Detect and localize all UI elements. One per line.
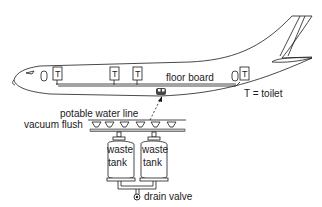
toilet-label: T — [112, 69, 118, 79]
toilet-legend: T = toilet — [244, 88, 283, 99]
toilet-label: T — [242, 69, 248, 79]
toilet-mid-2: T — [133, 67, 142, 85]
waste-tank-label-line1: waste — [106, 144, 134, 155]
floor-board-label: floor board — [166, 72, 214, 83]
vertical-stabilizer — [288, 16, 305, 56]
drain-valve-label: drain valve — [144, 191, 193, 202]
toilet-front: T — [53, 67, 62, 80]
cockpit-window — [26, 71, 34, 74]
tank-location-marker — [156, 88, 166, 95]
waste-tank-label-line2: tank — [108, 157, 128, 168]
waste-tank-label-line2: tank — [143, 157, 163, 168]
tank-inlet-left — [117, 132, 121, 137]
vacuum-flush-bowls — [92, 122, 176, 127]
waste-tank-right: waste tank — [140, 137, 169, 181]
waste-tank-left: waste tank — [106, 137, 135, 181]
vertical-stabilizer-leading — [280, 16, 300, 56]
horizontal-stabilizer — [272, 58, 312, 63]
vacuum-line — [90, 129, 185, 132]
toilet-label: T — [55, 69, 61, 79]
diagram-canvas: floor board T T T T T = toilet — [0, 0, 322, 207]
door-rear — [232, 71, 238, 81]
vacuum-flush-label: vacuum flush — [24, 119, 83, 130]
detail-callout-arrow — [150, 96, 162, 120]
toilet-mid-1: T — [110, 67, 119, 85]
door-front — [41, 71, 47, 81]
aircraft: floor board T T T T — [13, 16, 312, 96]
tank-inlet-right — [152, 132, 156, 137]
potable-water-line-label: potable water line — [60, 108, 139, 119]
waste-tank-label-line1: waste — [141, 144, 169, 155]
toilet-label: T — [135, 69, 141, 79]
drain-valve-icon — [134, 194, 140, 200]
